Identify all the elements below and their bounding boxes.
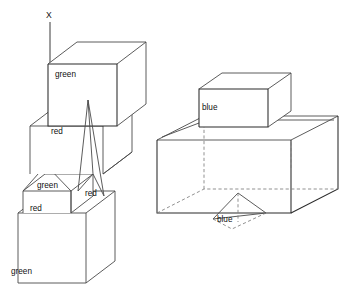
label-green-pyramid: green (37, 181, 58, 190)
right-scene-group: blue blue (157, 73, 338, 229)
label-green-top: green (55, 70, 76, 79)
label-green-bottom: green (11, 267, 32, 276)
blue-cube (199, 73, 291, 127)
label-blue-cone: blue (217, 215, 233, 224)
open-container (157, 116, 338, 213)
diagram-canvas: X (0, 0, 353, 292)
top-green-box (48, 42, 146, 126)
label-red-lower: red (30, 204, 42, 213)
three-d-block-scene-svg: X (0, 0, 353, 292)
label-red-upper: red (51, 127, 63, 136)
left-scene-group: X (11, 10, 146, 283)
label-blue-cube: blue (202, 103, 218, 112)
label-red-right: red (85, 189, 97, 198)
x-axis-label: X (46, 10, 52, 20)
